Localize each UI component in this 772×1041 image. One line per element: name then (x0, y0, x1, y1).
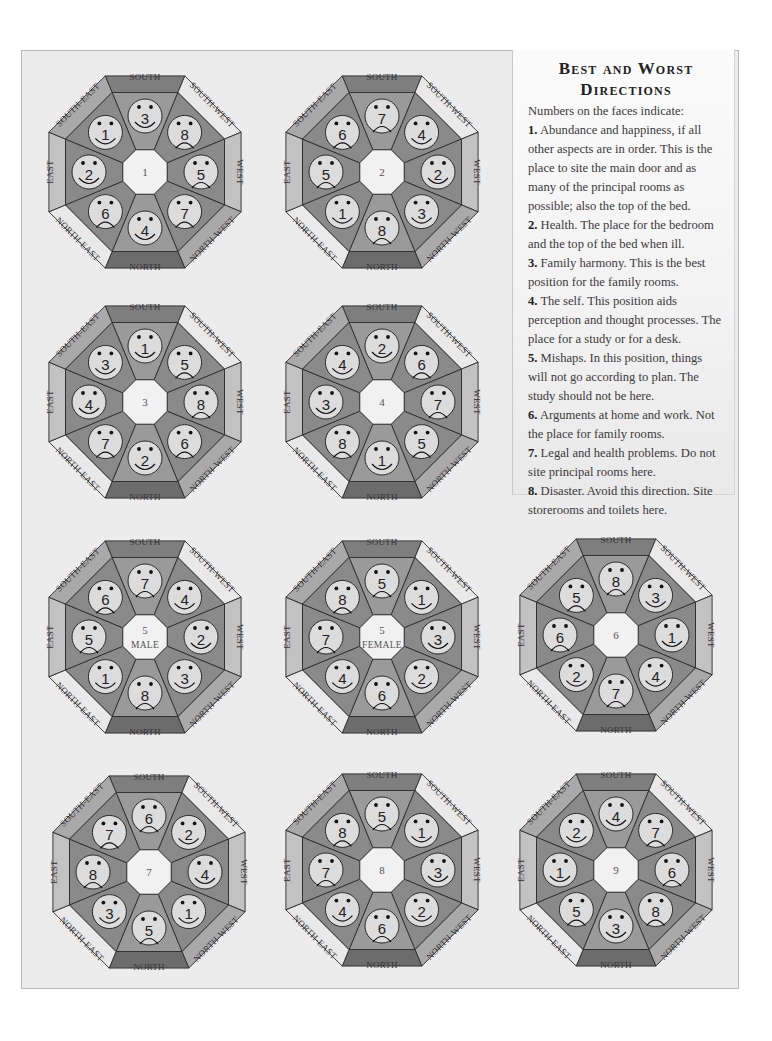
direction-label-south: SOUTH (129, 537, 160, 547)
happy-face-icon: 3 (88, 345, 122, 379)
sad-face-icon: 5 (365, 564, 399, 598)
face-number: 8 (651, 903, 659, 920)
direction-label-west: WEST (239, 859, 249, 885)
sad-face-icon: 6 (405, 345, 439, 379)
face-number: 5 (417, 435, 425, 452)
sad-face-icon: 8 (325, 580, 359, 614)
legend-title: Best and Worst Directions (528, 58, 724, 100)
legend-title-line2: Directions (528, 79, 724, 100)
sad-face-icon: 8 (325, 813, 359, 847)
direction-label-west: WEST (235, 389, 245, 415)
happy-face-icon: 1 (365, 441, 399, 475)
sad-face-icon: 8 (639, 893, 673, 927)
face-number: 7 (105, 826, 113, 843)
happy-face-icon: 2 (128, 441, 162, 475)
happy-face-icon: 1 (325, 195, 359, 229)
face-number: 7 (180, 205, 188, 222)
legend-item-4: 4. The self. This position aids percepti… (528, 292, 724, 349)
sad-face-icon: 7 (599, 674, 633, 708)
face-number: 3 (434, 631, 442, 648)
direction-label-north: NORTH (133, 962, 165, 972)
face-number: 6 (378, 687, 386, 704)
happy-face-icon: 4 (325, 660, 359, 694)
legend-item-5: 5. Mishaps. In this position, things wil… (528, 349, 724, 406)
face-number: 6 (101, 205, 109, 222)
happy-face-icon: 1 (88, 115, 122, 149)
happy-face-icon: 1 (655, 618, 689, 652)
happy-face-icon: 1 (172, 895, 206, 929)
happy-face-icon: 3 (421, 853, 455, 887)
legend-text: Legal and health problems. Do not site p… (528, 446, 715, 479)
direction-label-north: NORTH (600, 725, 632, 735)
legend-number: 7. (528, 446, 537, 460)
sad-face-icon: 5 (132, 911, 166, 945)
happy-face-icon: 2 (421, 155, 455, 189)
face-number: 4 (338, 903, 346, 920)
face-number: 5 (378, 575, 386, 592)
sad-face-icon: 8 (76, 855, 110, 889)
sad-face-icon: 5 (309, 155, 343, 189)
sad-face-icon: 5 (559, 893, 593, 927)
center-octagon (360, 615, 404, 659)
happy-face-icon: 3 (168, 660, 202, 694)
kua-number: 7 (146, 866, 152, 878)
direction-label-east: EAST (282, 390, 292, 414)
direction-label-west: WEST (472, 624, 482, 650)
bagua-chart-8: SOUTH5SOUTH-WEST1WEST3NORTH-WEST2NORTH6N… (275, 763, 489, 977)
kua-number: 5 (142, 624, 148, 636)
face-number: 4 (338, 356, 346, 373)
face-number: 7 (651, 824, 659, 841)
happy-face-icon: 2 (559, 813, 593, 847)
direction-label-south: SOUTH (600, 770, 631, 780)
kua-number: 8 (379, 864, 385, 876)
legend-number: 3. (528, 256, 537, 270)
face-number: 2 (417, 670, 425, 687)
face-number: 5 (180, 356, 188, 373)
direction-label-south: SOUTH (366, 770, 397, 780)
face-number: 6 (338, 126, 346, 143)
face-number: 1 (184, 905, 192, 922)
octagon-diagram: SOUTH5SOUTH-WEST1WEST3NORTH-WEST2NORTH6N… (275, 530, 489, 744)
kua-number: 4 (379, 396, 385, 408)
direction-label-east: EAST (49, 860, 59, 884)
sad-face-icon: 5 (365, 797, 399, 831)
face-number: 8 (612, 573, 620, 590)
face-number: 8 (141, 687, 149, 704)
direction-label-south: SOUTH (129, 302, 160, 312)
face-number: 2 (141, 452, 149, 469)
happy-face-icon: 2 (559, 658, 593, 692)
happy-face-icon: 1 (128, 329, 162, 363)
direction-label-north: NORTH (366, 492, 398, 502)
happy-face-icon: 1 (543, 853, 577, 887)
bagua-chart-2: SOUTH7SOUTH-WEST4WEST2NORTH-WEST3NORTH8N… (275, 65, 489, 279)
face-number: 3 (322, 396, 330, 413)
face-number: 7 (141, 575, 149, 592)
face-number: 6 (417, 356, 425, 373)
face-number: 2 (85, 166, 93, 183)
happy-face-icon: 1 (405, 580, 439, 614)
sad-face-icon: 7 (168, 195, 202, 229)
direction-label-west: WEST (235, 624, 245, 650)
legend-item-2: 2. Health. The place for the bedroom and… (528, 216, 724, 254)
direction-label-north: NORTH (129, 492, 161, 502)
happy-face-icon: 1 (88, 660, 122, 694)
bagua-chart-6: SOUTH8SOUTH-WEST3WEST1NORTH-WEST4NORTH7N… (509, 528, 723, 742)
legend-number: 5. (528, 351, 537, 365)
face-number: 2 (572, 824, 580, 841)
happy-face-icon: 4 (599, 797, 633, 831)
sad-face-icon: 7 (88, 425, 122, 459)
sad-face-icon: 8 (184, 385, 218, 419)
face-number: 3 (612, 920, 620, 937)
face-number: 7 (612, 685, 620, 702)
legend-text: The self. This position aids perception … (528, 294, 721, 346)
face-number: 3 (417, 205, 425, 222)
face-number: 3 (101, 356, 109, 373)
sad-face-icon: 6 (88, 195, 122, 229)
direction-label-east: EAST (516, 858, 526, 882)
face-number: 8 (338, 435, 346, 452)
kua-number: 9 (613, 864, 619, 876)
face-number: 3 (434, 864, 442, 881)
legend-sidebar: Best and Worst Directions Numbers on the… (512, 50, 735, 495)
face-number: 6 (556, 629, 564, 646)
direction-label-south: SOUTH (133, 772, 164, 782)
